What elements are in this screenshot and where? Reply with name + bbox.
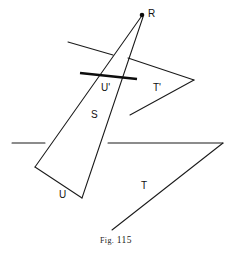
segment-triangle-right-edge — [82, 17, 143, 198]
label-U: U — [59, 190, 66, 200]
label-T: T — [141, 181, 147, 191]
figure-container: R U' T' S T U Fig. 115 — [0, 0, 232, 253]
caption-prefix: Fig. — [100, 236, 114, 245]
figure-drawing — [0, 0, 232, 253]
segment-t-diagonal-ray — [112, 143, 223, 230]
label-U-prime: U' — [101, 83, 110, 93]
point-layer — [140, 13, 145, 18]
segment-plane-uprime-trace — [80, 73, 137, 79]
segment-tprime-upper-ray — [128, 58, 194, 80]
label-T-prime: T' — [153, 83, 161, 93]
label-S: S — [91, 110, 98, 120]
segment-layer — [12, 17, 223, 230]
caption-number: 115 — [117, 235, 132, 245]
figure-caption: Fig. 115 — [0, 235, 232, 246]
segment-triangle-left-edge — [35, 17, 141, 167]
segment-plane-s-upper-trace — [68, 42, 113, 55]
segment-tprime-lower-ray — [130, 80, 194, 115]
vertex-point-R — [140, 13, 145, 18]
label-R: R — [148, 9, 155, 19]
